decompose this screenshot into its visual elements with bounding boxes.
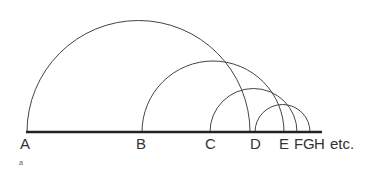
point-label-d: D — [250, 136, 261, 151]
point-label-e: E — [279, 136, 289, 151]
point-label-h: H — [314, 136, 325, 151]
diagram: A B C D E F G H etc. a — [0, 0, 380, 171]
footnote-mark: a — [19, 159, 23, 166]
point-label-b: B — [136, 136, 146, 151]
arc-1 — [27, 21, 250, 132]
point-label-g: G — [303, 136, 315, 151]
point-label-a: A — [20, 136, 30, 151]
point-label-c: C — [205, 136, 216, 151]
arc-2 — [142, 61, 284, 132]
etc-label: etc. — [330, 136, 354, 151]
point-label-f: F — [294, 136, 303, 151]
